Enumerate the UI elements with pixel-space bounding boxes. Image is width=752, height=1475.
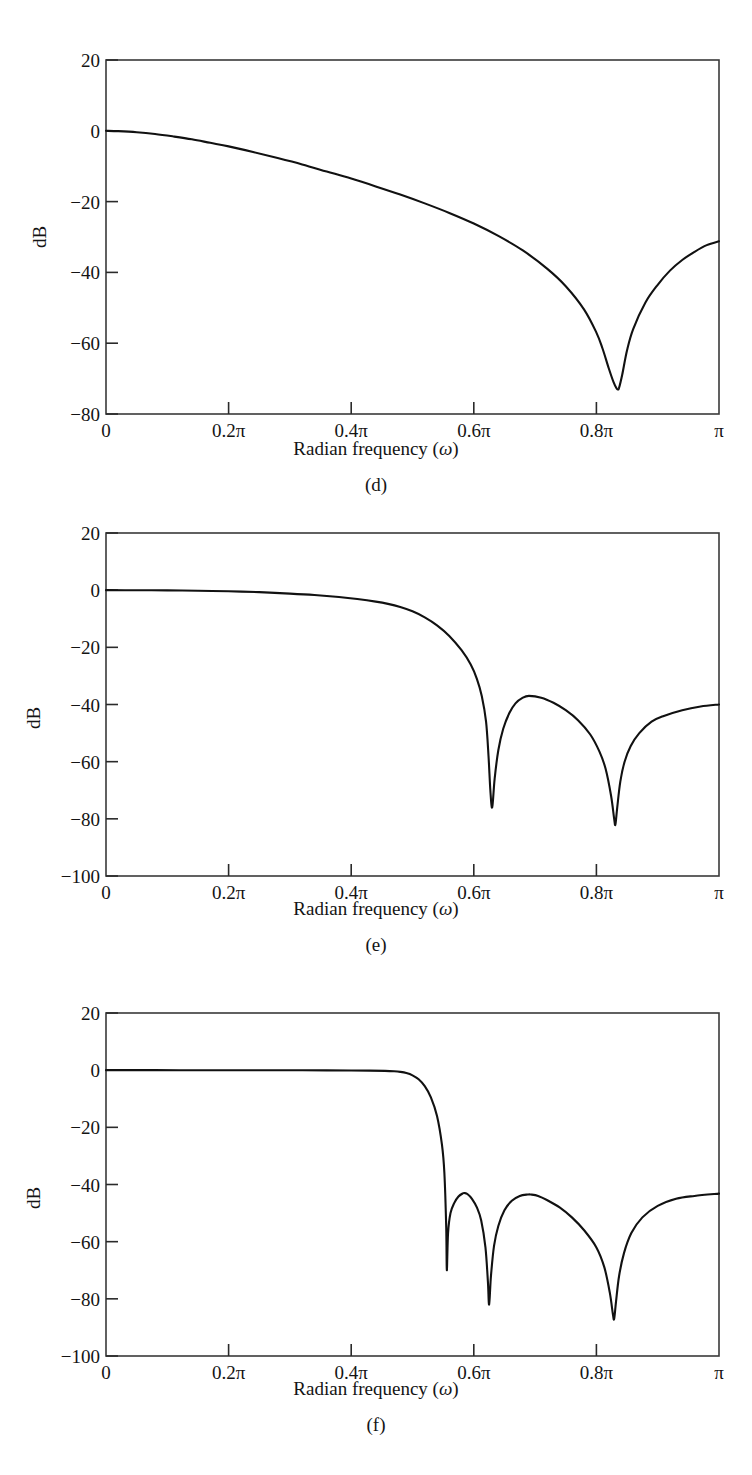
x-axis-title-prefix-f: Radian frequency ( xyxy=(293,1378,439,1399)
x-tick-label-e-3: 0.6π xyxy=(457,882,491,900)
x-axis-title-prefix-e: Radian frequency ( xyxy=(293,898,439,919)
x-tick-label-e-0: 0 xyxy=(101,882,111,900)
y-tick-label-f-3: −40 xyxy=(70,1175,100,1196)
y-tick-label-e-0: 20 xyxy=(81,523,100,544)
panel-caption-f: (f) xyxy=(0,1414,752,1436)
x-tick-label-d-2: 0.4π xyxy=(335,420,369,440)
x-axis-title-f: Radian frequency (ω) xyxy=(0,1378,752,1400)
y-tick-label-d-1: 0 xyxy=(91,121,101,142)
panel-d-plot: 20 0 −20 −40 −60 −80 0 0.2π 0.4π 0.6π 0.… xyxy=(0,40,752,440)
y-tick-label-e-1: 0 xyxy=(91,580,101,601)
x-axis-title-suffix-e: ) xyxy=(452,898,458,919)
x-tick-label-d-3: 0.6π xyxy=(457,420,491,440)
y-tick-label-e-3: −40 xyxy=(70,695,100,716)
x-tick-label-f-3: 0.6π xyxy=(457,1362,491,1380)
y-axis-label-e: dB xyxy=(23,707,44,729)
x-tick-label-e-5: π xyxy=(714,882,724,900)
x-tick-label-f-4: 0.8π xyxy=(580,1362,614,1380)
y-tick-label-f-5: −80 xyxy=(70,1289,100,1310)
x-tick-label-d-4: 0.8π xyxy=(580,420,614,440)
x-axis-title-e: Radian frequency (ω) xyxy=(0,898,752,920)
x-tick-label-f-5: π xyxy=(714,1362,724,1380)
y-tick-label-f-6: −100 xyxy=(61,1346,100,1367)
y-tick-label-e-6: −100 xyxy=(61,866,100,887)
y-axis-label-d: dB xyxy=(29,226,50,248)
x-tick-label-e-4: 0.8π xyxy=(580,882,614,900)
panel-e: 20 0 −20 −40 −60 −80 −100 0 0.2π 0.4π 0.… xyxy=(0,518,752,956)
x-axis-title-suffix-f: ) xyxy=(452,1378,458,1399)
x-tick-label-e-1: 0.2π xyxy=(212,882,246,900)
panel-caption-e: (e) xyxy=(0,934,752,956)
x-axis-title-suffix-d: ) xyxy=(452,438,458,459)
y-tick-label-e-2: −20 xyxy=(70,637,100,658)
y-tick-label-d-3: −40 xyxy=(70,262,100,283)
panel-f: 20 0 −20 −40 −60 −80 −100 0 0.2π 0.4π 0.… xyxy=(0,998,752,1436)
panel-e-plot: 20 0 −20 −40 −60 −80 −100 0 0.2π 0.4π 0.… xyxy=(0,518,752,900)
x-tick-label-d-1: 0.2π xyxy=(212,420,246,440)
y-tick-label-d-4: −60 xyxy=(70,333,100,354)
x-tick-label-f-0: 0 xyxy=(101,1362,111,1380)
omega-symbol-d: ω xyxy=(439,438,452,459)
y-tick-label-f-2: −20 xyxy=(70,1117,100,1138)
y-tick-label-e-4: −60 xyxy=(70,752,100,773)
plot-frame-d xyxy=(106,60,719,414)
plot-frame-f xyxy=(106,1013,719,1356)
plot-frame-e xyxy=(106,533,719,876)
x-tick-label-d-0: 0 xyxy=(101,420,111,440)
x-tick-label-d-5: π xyxy=(714,420,724,440)
x-axis-title-prefix-d: Radian frequency ( xyxy=(293,438,439,459)
y-tick-label-f-1: 0 xyxy=(91,1060,101,1081)
y-tick-label-d-2: −20 xyxy=(70,192,100,213)
panel-d: 20 0 −20 −40 −60 −80 0 0.2π 0.4π 0.6π 0.… xyxy=(0,40,752,496)
y-axis-label-f: dB xyxy=(23,1187,44,1209)
y-tick-label-f-0: 20 xyxy=(81,1003,100,1024)
omega-symbol-e: ω xyxy=(439,898,452,919)
y-tick-label-f-4: −60 xyxy=(70,1232,100,1253)
x-axis-title-d: Radian frequency (ω) xyxy=(0,438,752,460)
y-tick-label-d-5: −80 xyxy=(70,404,100,425)
y-tick-label-d-0: 20 xyxy=(81,50,100,71)
panel-caption-d: (d) xyxy=(0,474,752,496)
y-tick-label-e-5: −80 xyxy=(70,809,100,830)
omega-symbol-f: ω xyxy=(439,1378,452,1399)
x-tick-label-f-1: 0.2π xyxy=(212,1362,246,1380)
panel-f-plot: 20 0 −20 −40 −60 −80 −100 0 0.2π 0.4π 0.… xyxy=(0,998,752,1380)
